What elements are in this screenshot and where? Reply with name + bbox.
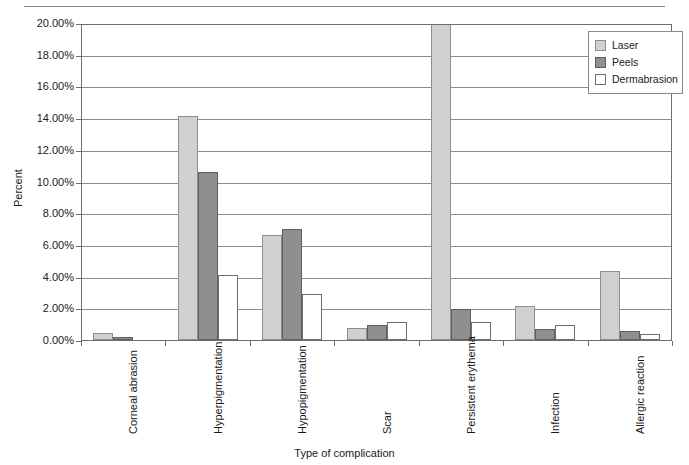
y-axis-tick-label: 18.00% [4,50,74,61]
x-axis-category-label: Corneal abrasion [128,350,139,434]
y-axis-tick-label: 0.00% [4,335,74,346]
x-axis-tick-mark [588,341,589,346]
bar-laser-3 [347,328,367,340]
legend-label-dermabrasion: Dermabrasion [612,74,678,85]
legend-item-dermabrasion: Dermabrasion [595,71,676,88]
bar-chart-figure: 0.00%2.00%4.00%6.00%8.00%10.00%12.00%14.… [0,0,689,465]
x-axis-tick-mark [672,341,673,346]
bar-derm-1 [218,275,238,340]
legend-item-peels: Peels [595,54,676,71]
x-axis-category-label: Persistent erythema [466,336,477,434]
bar-peels-5 [535,329,555,340]
bar-peels-1 [198,172,218,340]
x-axis-title: Type of complication [0,447,689,459]
legend-item-laser: Laser [595,37,676,54]
x-axis-tick-mark [81,341,82,346]
bar-laser-5 [515,306,535,340]
y-axis-tick-label: 2.00% [4,303,74,314]
bar-peels-0 [113,337,133,340]
bar-peels-6 [620,331,640,340]
x-axis-tick-mark [503,341,504,346]
bar-laser-0 [93,333,113,340]
legend-label-laser: Laser [612,40,638,51]
chart-legend: Laser Peels Dermabrasion [588,31,683,94]
x-axis-category-label: Infection [550,392,561,434]
bars-layer [82,25,671,340]
x-axis-tick-mark [419,341,420,346]
y-axis-tick-label: 6.00% [4,240,74,251]
y-axis-tick-label: 14.00% [4,113,74,124]
y-axis-tick-label: 8.00% [4,208,74,219]
x-axis-category-label: Allergic reaction [635,356,646,434]
x-axis-tick-mark [165,341,166,346]
bar-peels-2 [282,229,302,340]
header-rule [24,6,665,7]
bar-derm-6 [640,334,660,340]
y-axis-tick-label: 4.00% [4,272,74,283]
legend-swatch-dermabrasion-icon [595,74,606,85]
bar-derm-3 [387,322,407,340]
x-axis-category-label: Hypopigmentation [297,345,308,434]
y-axis-tick-label: 16.00% [4,81,74,92]
bar-laser-4 [431,25,451,340]
bar-laser-2 [262,235,282,340]
y-axis-tick-label: 12.00% [4,145,74,156]
bar-laser-6 [600,271,620,340]
x-axis-category-label: Hyperpigmentation [213,342,224,434]
y-axis-title: Percent [12,169,24,207]
legend-label-peels: Peels [612,57,638,68]
x-axis-category-label: Scar [382,411,393,434]
bar-derm-5 [555,325,575,340]
bar-derm-2 [302,294,322,340]
legend-swatch-laser-icon [595,40,606,51]
x-axis-tick-mark [250,341,251,346]
bar-peels-3 [367,325,387,340]
legend-swatch-peels-icon [595,57,606,68]
bar-laser-1 [178,116,198,340]
y-axis-tick-label: 20.00% [4,18,74,29]
x-axis-tick-mark [334,341,335,346]
